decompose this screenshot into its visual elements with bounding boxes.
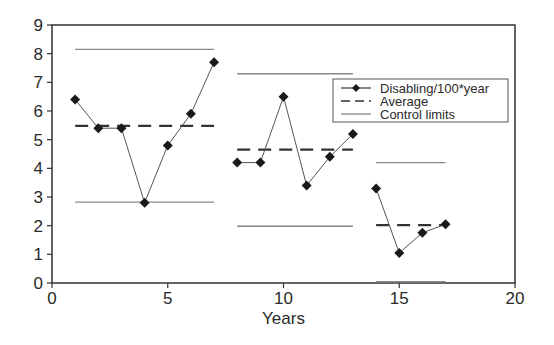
data-point xyxy=(116,123,126,133)
data-point xyxy=(255,158,265,168)
y-tick-label: 9 xyxy=(34,16,43,35)
plot-frame xyxy=(52,25,515,283)
x-tick-label: 0 xyxy=(47,289,56,308)
x-tick-label: 20 xyxy=(506,289,525,308)
data-point xyxy=(302,181,312,191)
legend-label: Control limits xyxy=(380,107,456,122)
legend: Disabling/100*yearAverageControl limits xyxy=(333,79,508,122)
y-tick-label: 7 xyxy=(34,73,43,92)
data-point xyxy=(186,109,196,119)
data-point xyxy=(93,123,103,133)
data-point xyxy=(140,198,150,208)
y-tick-label: 1 xyxy=(34,245,43,264)
y-tick-label: 4 xyxy=(34,159,43,178)
y-tick-label: 8 xyxy=(34,45,43,64)
x-tick-label: 10 xyxy=(274,289,293,308)
y-tick-label: 3 xyxy=(34,188,43,207)
data-point xyxy=(371,183,381,193)
data-point xyxy=(232,158,242,168)
data-point xyxy=(441,219,451,229)
control-chart: 012345678905101520 Years Disabling/100*y… xyxy=(0,0,554,345)
series-line xyxy=(75,62,214,202)
data-point xyxy=(163,140,173,150)
y-tick-label: 6 xyxy=(34,102,43,121)
series-line xyxy=(376,188,445,253)
x-axis-title: Years xyxy=(262,309,305,328)
data-point xyxy=(209,57,219,67)
y-tick-label: 2 xyxy=(34,217,43,236)
x-tick-label: 15 xyxy=(390,289,409,308)
x-tick-label: 5 xyxy=(163,289,172,308)
data-point xyxy=(279,92,289,102)
data-point xyxy=(70,95,80,105)
y-tick-label: 0 xyxy=(34,274,43,293)
y-tick-label: 5 xyxy=(34,131,43,150)
